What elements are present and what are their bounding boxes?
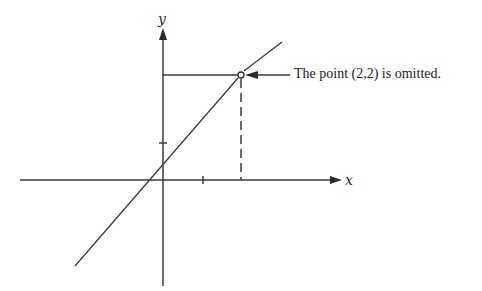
y-axis — [159, 28, 167, 286]
graph-canvas: x y — [0, 0, 482, 291]
annotation-arrow-icon — [245, 71, 290, 79]
function-line-lower — [75, 78, 238, 266]
omitted-point-annotation: The point (2,2) is omitted. — [294, 66, 441, 82]
y-axis-label: y — [157, 11, 167, 27]
x-axis-label: x — [345, 172, 353, 188]
x-axis-arrow-icon — [330, 176, 342, 184]
x-axis — [20, 176, 342, 184]
function-line-upper — [244, 42, 282, 71]
y-axis-arrow-icon — [159, 28, 167, 40]
omitted-point-open-circle — [238, 72, 244, 78]
